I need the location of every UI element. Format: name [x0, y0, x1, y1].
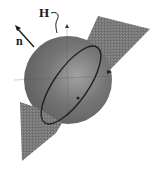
axis-arrow-up-icon [65, 24, 69, 28]
sphere-plane-diagram [0, 0, 158, 172]
point-marker [77, 97, 80, 100]
normal-arrowhead-icon [15, 25, 21, 31]
label-H: H [39, 5, 49, 21]
label-n: n [16, 34, 23, 49]
H-pointer [51, 12, 58, 33]
